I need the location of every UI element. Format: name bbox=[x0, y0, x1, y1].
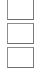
checkbox-item-2[interactable] bbox=[7, 23, 34, 44]
box-stack bbox=[0, 0, 49, 72]
checkbox-fill-1 bbox=[8, 0, 33, 19]
checkbox-item-1[interactable] bbox=[7, 0, 34, 20]
checkbox-fill-2 bbox=[8, 24, 33, 43]
screen-root bbox=[0, 0, 49, 72]
checkbox-item-3[interactable] bbox=[7, 47, 34, 68]
checkbox-fill-3 bbox=[8, 48, 33, 67]
